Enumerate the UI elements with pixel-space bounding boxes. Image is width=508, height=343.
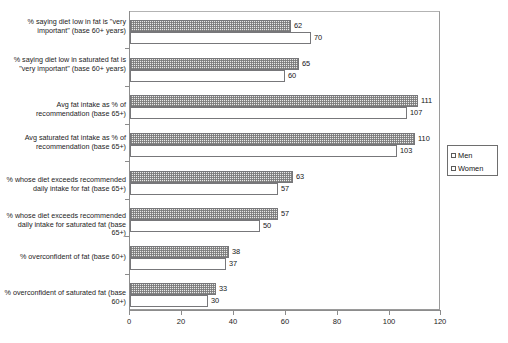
x-axis-tick — [181, 311, 182, 315]
legend-label-women: Women — [458, 165, 483, 172]
bar-value-men-5: 57 — [281, 208, 289, 220]
bar-value-men-0: 62 — [294, 20, 302, 32]
y-axis-tick — [125, 199, 129, 200]
bar-value-men-4: 63 — [296, 171, 304, 183]
bar-value-men-7: 33 — [219, 283, 227, 295]
bar-women-7[interactable] — [130, 295, 208, 307]
legend-swatch-men-icon — [451, 153, 456, 158]
category-label-7: % overconfident of saturated fat (base 6… — [2, 289, 126, 306]
y-axis-tick — [125, 48, 129, 49]
bar-value-women-4: 57 — [281, 183, 289, 195]
x-axis-label-0: 0 — [127, 317, 131, 326]
x-axis-label-2: 40 — [229, 317, 237, 326]
bar-women-5[interactable] — [130, 220, 260, 232]
category-label-0: % saying diet low in fat is "very import… — [2, 18, 126, 35]
y-axis-tick — [125, 124, 129, 125]
x-axis-tick — [129, 311, 130, 315]
bar-women-3[interactable] — [130, 145, 397, 157]
bar-chart: % saying diet low in fat is "very import… — [0, 0, 508, 343]
bar-men-5[interactable] — [130, 208, 278, 220]
x-axis-tick — [440, 311, 441, 315]
bar-value-men-3: 110 — [418, 133, 430, 145]
bar-women-0[interactable] — [130, 32, 311, 44]
y-axis-tick — [125, 274, 129, 275]
x-axis-label-5: 100 — [383, 317, 396, 326]
bar-men-2[interactable] — [130, 95, 418, 107]
bar-men-4[interactable] — [130, 171, 293, 183]
category-label-1: % saying diet low in saturated fat is "v… — [2, 56, 126, 73]
bar-value-women-1: 60 — [288, 70, 296, 82]
bar-value-women-0: 70 — [314, 32, 322, 44]
bar-men-6[interactable] — [130, 246, 229, 258]
bar-value-men-2: 111 — [421, 95, 432, 107]
bar-men-7[interactable] — [130, 283, 216, 295]
bar-women-2[interactable] — [130, 107, 407, 119]
legend-swatch-women-icon — [451, 166, 456, 171]
y-axis-tick — [125, 86, 129, 87]
category-label-5: % whose diet exceeds recommended daily i… — [2, 212, 126, 238]
bar-women-6[interactable] — [130, 258, 226, 270]
category-label-6: % overconfident of fat (base 60+) — [2, 253, 126, 262]
legend: Men Women — [447, 145, 498, 176]
y-axis-tick — [125, 161, 129, 162]
bar-value-men-1: 65 — [302, 58, 310, 70]
bar-value-women-6: 37 — [229, 258, 237, 270]
bar-value-men-6: 38 — [232, 246, 240, 258]
bar-men-1[interactable] — [130, 58, 299, 70]
x-axis-label-1: 20 — [177, 317, 185, 326]
bar-men-0[interactable] — [130, 20, 291, 32]
bar-women-4[interactable] — [130, 183, 278, 195]
bar-men-3[interactable] — [130, 133, 415, 145]
x-axis-tick — [285, 311, 286, 315]
bar-women-1[interactable] — [130, 70, 285, 82]
y-axis-tick — [125, 236, 129, 237]
x-axis-label-4: 80 — [333, 317, 341, 326]
category-label-3: Avg saturated fat intake as % of recomme… — [2, 134, 126, 151]
bar-value-women-5: 50 — [263, 220, 271, 232]
category-label-4: % whose diet exceeds recommended daily i… — [2, 176, 126, 193]
x-axis-tick — [389, 311, 390, 315]
x-axis-label-3: 60 — [281, 317, 289, 326]
bar-value-women-2: 107 — [410, 107, 422, 119]
bar-value-women-3: 103 — [400, 145, 412, 157]
legend-item-men[interactable]: Men — [451, 150, 497, 161]
legend-item-women[interactable]: Women — [451, 163, 497, 174]
category-label-2: Avg fat intake as % of recommendation (b… — [2, 101, 126, 118]
x-axis-tick — [337, 311, 338, 315]
legend-label-men: Men — [458, 152, 472, 159]
x-axis-label-6: 120 — [434, 317, 447, 326]
x-axis-tick — [233, 311, 234, 315]
bar-value-women-7: 30 — [211, 295, 219, 307]
